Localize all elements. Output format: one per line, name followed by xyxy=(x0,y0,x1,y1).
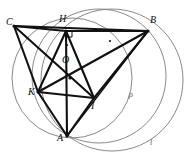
geometry-canvas xyxy=(0,0,184,156)
vertex-label-I: I xyxy=(91,101,94,111)
curve-label-l: l xyxy=(150,139,152,147)
curve-label-rho: ρ xyxy=(129,91,133,99)
vertex-label-K: K xyxy=(28,87,35,97)
segment-K-A xyxy=(38,92,67,136)
tick-on-HB xyxy=(109,40,111,42)
vertex-dot-K xyxy=(36,90,39,93)
tick-on-HA xyxy=(66,44,68,46)
vertex-dot-A xyxy=(65,134,68,137)
angle-and-tick-marks-layer xyxy=(66,31,111,46)
vertex-label-B: B xyxy=(150,15,156,25)
segment-H-I xyxy=(66,31,94,98)
segment-H-A xyxy=(66,31,67,136)
vertex-label-H: H xyxy=(59,14,66,24)
vertex-label-O: O xyxy=(62,55,69,65)
vertex-dot-B xyxy=(146,29,149,32)
vertex-label-A: A xyxy=(57,133,63,143)
vertex-label-C: C xyxy=(6,17,13,27)
geometry-figure: C H B O K I A ρ l xyxy=(0,0,184,156)
vertex-dot-O xyxy=(68,76,71,79)
vertex-dot-H xyxy=(64,29,67,32)
segments-layer xyxy=(14,26,148,136)
